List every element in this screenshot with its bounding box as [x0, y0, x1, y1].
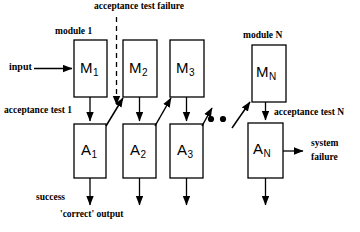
box-label-mn-sub: N [269, 71, 276, 82]
box-label-m1-text: M [80, 59, 93, 76]
label-correct-output: 'correct' output [60, 210, 123, 220]
box-label-a1-text: A [81, 141, 91, 158]
label-acceptance-test-1: acceptance test 1 [4, 106, 72, 116]
box-label-a2: A2 [130, 141, 146, 158]
box-label-a2-sub: 2 [141, 149, 147, 160]
box-label-m1: M1 [80, 59, 98, 76]
box-label-m3-sub: 3 [189, 67, 195, 78]
label-module-1: module 1 [55, 27, 92, 37]
diagram-canvas: module 1 module N acceptance test failur… [0, 0, 360, 232]
box-label-a3-sub: 3 [188, 149, 194, 160]
label-input: input [9, 62, 32, 73]
box-label-mn: MN [256, 63, 276, 80]
box-label-m3-text: M [176, 59, 189, 76]
label-system-failure-line1: system [311, 139, 338, 149]
box-label-m2-text: M [129, 59, 142, 76]
box-label-m2: M2 [129, 59, 147, 76]
box-label-mn-text: M [256, 63, 269, 80]
box-label-m3: M3 [176, 59, 194, 76]
box-label-an: AN [253, 140, 270, 157]
retry-arrow-prev-to-mn [232, 102, 250, 128]
box-label-a2-text: A [130, 141, 140, 158]
box-label-an-sub: N [264, 148, 271, 159]
box-label-m1-sub: 1 [93, 67, 99, 78]
box-label-a1: A1 [81, 141, 97, 158]
box-label-a3-text: A [177, 141, 187, 158]
box-label-a3: A3 [177, 141, 193, 158]
box-label-a1-sub: 1 [92, 149, 98, 160]
label-acceptance-test-n: acceptance test N [274, 108, 344, 118]
label-module-n: module N [243, 31, 282, 41]
retry-arrow-a1-to-m2 [106, 98, 123, 126]
retry-arrow-a2-to-m3 [155, 98, 171, 126]
label-acceptance-test-failure: acceptance test failure [94, 2, 184, 12]
box-label-m2-sub: 2 [142, 67, 148, 78]
label-system-failure-line2: failure [311, 153, 338, 163]
ellipsis-dot-2 [220, 116, 226, 122]
label-success: success [36, 193, 65, 203]
box-label-an-text: A [253, 140, 263, 157]
ellipsis-dot-1 [208, 116, 214, 122]
